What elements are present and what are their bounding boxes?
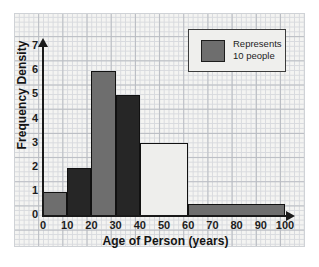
y-axis-line: [42, 46, 44, 217]
filled-square-icon: [201, 40, 225, 62]
histogram-bar: [67, 168, 91, 217]
histogram-plot: 7 6 5 4 3 2 1 0 0 10 20 30 40 50 60 70 8…: [0, 0, 319, 267]
x-axis-title: Age of Person (years): [43, 234, 288, 248]
histogram-bar: [43, 192, 67, 217]
y-axis-arrow-icon: [38, 38, 48, 47]
histogram-bar: [140, 143, 188, 217]
legend: Represents 10 people: [188, 29, 286, 72]
x-tick-label: 40: [128, 220, 152, 231]
histogram-bar: [91, 71, 115, 217]
y-axis-title: Frequency Density: [15, 30, 29, 160]
y-tick-label: 1: [22, 185, 38, 196]
x-tick-label: 0: [31, 220, 55, 231]
x-tick-label: 100: [273, 220, 297, 231]
x-tick-label: 20: [79, 220, 103, 231]
x-tick-label: 70: [200, 220, 224, 231]
x-tick-label: 10: [55, 220, 79, 231]
y-tick-label: 0: [22, 209, 38, 220]
x-tick-label: 30: [104, 220, 128, 231]
legend-label-line1: Represents: [233, 38, 285, 50]
y-tick-label: 2: [22, 161, 38, 172]
legend-label-line2: 10 people: [233, 50, 285, 62]
x-tick-label: 50: [152, 220, 176, 231]
legend-label: Represents 10 people: [233, 38, 285, 61]
x-tick-label: 60: [176, 220, 200, 231]
x-tick-label: 90: [249, 220, 273, 231]
histogram-bar: [116, 95, 140, 217]
x-tick-label: 80: [225, 220, 249, 231]
x-axis-line: [43, 215, 288, 217]
